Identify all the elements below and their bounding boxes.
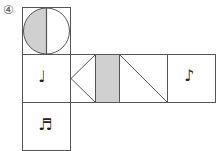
sixteenth-notes-icon: ♬ bbox=[38, 117, 52, 133]
eighth-note-icon: ♪ bbox=[184, 68, 194, 84]
quarter-note-icon: ♩ bbox=[38, 69, 46, 85]
top-face bbox=[23, 8, 71, 55]
